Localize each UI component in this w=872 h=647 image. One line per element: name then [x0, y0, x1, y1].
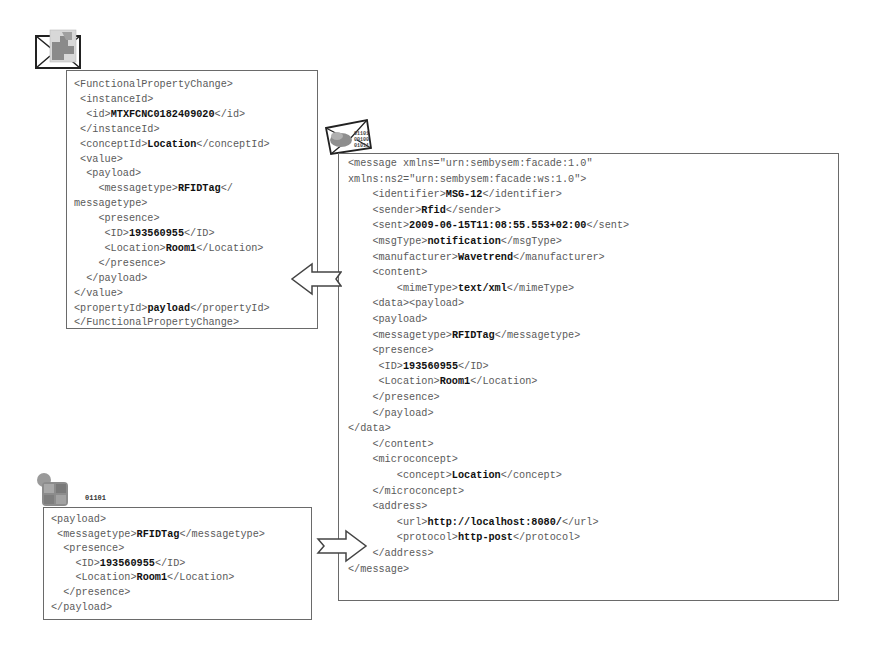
envelope-binary-icon: 01101 00100 01011	[323, 118, 373, 156]
xml-tag: <conceptId>	[80, 139, 147, 150]
xml-line: <instanceId>	[80, 92, 153, 107]
xml-tag: </content>	[372, 439, 433, 450]
xml-tag: <identifier>	[372, 189, 445, 200]
xml-tag: <mimeType>	[397, 283, 458, 294]
xml-line: </payload>	[86, 271, 147, 286]
xml-line: messagetype>	[74, 196, 147, 211]
xml-tag: <sent>	[372, 220, 409, 231]
xml-tag: <data><payload>	[372, 298, 464, 309]
xml-line: <presence>	[98, 211, 159, 226]
xml-tag: <sender>	[372, 205, 421, 216]
xml-closing-tag: </ID>	[184, 228, 215, 239]
xml-line: <ID>193560955</ID>	[75, 556, 185, 571]
xml-tag: <instanceId>	[80, 94, 153, 105]
xml-value: http://localhost:8080/	[427, 517, 562, 528]
xml-value: MTXFCNC0182409020	[111, 109, 215, 120]
xml-tag: <presence>	[98, 213, 159, 224]
xml-line: <concept>Location</concept>	[397, 468, 562, 483]
xml-tag: <Location>	[379, 376, 440, 387]
xml-tag: <presence>	[63, 543, 124, 554]
message-xml-box: <message xmlns="urn:sembysem:facade:1.0"…	[338, 153, 839, 601]
xml-line: <manufacturer>Wavetrend</manufacturer>	[372, 250, 604, 265]
xml-tag: <ID>	[75, 558, 99, 569]
xml-tag: </payload>	[372, 408, 433, 419]
xml-closing-tag: </sender>	[446, 205, 501, 216]
xml-tag: <presence>	[372, 345, 433, 356]
xml-line: <Location>Room1</Location>	[379, 374, 538, 389]
xml-tag: </FunctionalPropertyChange>	[74, 317, 239, 328]
xml-value: Wavetrend	[458, 252, 513, 263]
xml-tag: <payload>	[86, 168, 141, 179]
xml-tag: </payload>	[51, 602, 112, 613]
xml-tag: <concept>	[397, 470, 452, 481]
left-arrow-icon	[290, 262, 342, 296]
xml-tag: <value>	[80, 154, 123, 165]
xml-line: </FunctionalPropertyChange>	[74, 315, 239, 330]
xml-closing-tag: </url>	[562, 517, 599, 528]
xml-line: <address>	[372, 499, 427, 514]
xml-tag: xmlns:ns2="urn:sembysem:facade:ws:1.0">	[348, 174, 586, 185]
xml-line: <data><payload>	[372, 296, 464, 311]
xml-line: </presence>	[372, 390, 439, 405]
xml-tag: <payload>	[372, 314, 427, 325]
xml-line: <Location>Room1</Location>	[105, 241, 264, 256]
xml-line: </content>	[372, 437, 433, 452]
right-arrow-icon	[316, 529, 368, 563]
xml-tag: <address>	[372, 501, 427, 512]
xml-line: <microconcept>	[372, 452, 458, 467]
xml-line: </payload>	[51, 600, 112, 615]
xml-tag: <Location>	[105, 243, 166, 254]
xml-line: <protocol>http-post</protocol>	[397, 530, 580, 545]
xml-value: Room1	[137, 572, 168, 583]
xml-tag: messagetype>	[74, 198, 147, 209]
xml-tag: </message>	[348, 564, 409, 575]
xml-line: <id>MTXFCNC0182409020</id>	[86, 107, 245, 122]
xml-tag: </presence>	[63, 587, 130, 598]
xml-line: <propertyId>payload</propertyId>	[74, 301, 270, 316]
xml-tag: </value>	[74, 288, 123, 299]
xml-tag: <content>	[372, 267, 427, 278]
xml-line: </message>	[348, 562, 409, 577]
xml-tag: <messagetype>	[57, 529, 136, 540]
xml-closing-tag: </messagetype>	[179, 529, 265, 540]
xml-closing-tag: </	[221, 183, 233, 194]
xml-value: Room1	[440, 376, 471, 387]
xml-line: </data>	[348, 421, 391, 436]
xml-tag: </presence>	[372, 392, 439, 403]
xml-line: <ID>193560955</ID>	[379, 359, 489, 374]
xml-line: </value>	[74, 286, 123, 301]
xml-line: <url>http://localhost:8080/</url>	[397, 515, 599, 530]
xml-tag: <FunctionalPropertyChange>	[74, 79, 233, 90]
xml-line: <content>	[372, 265, 427, 280]
xml-line: </address>	[372, 546, 433, 561]
xml-line: <messagetype>RFIDTag</messagetype>	[372, 328, 580, 343]
xml-value: Location	[452, 470, 501, 481]
xml-closing-tag: </protocol>	[513, 532, 580, 543]
xml-closing-tag: </concept>	[501, 470, 562, 481]
xml-value: Rfid	[421, 205, 445, 216]
xml-value: 2009-06-15T11:08:55.553+02:00	[409, 220, 586, 231]
xml-closing-tag: </messagetype>	[495, 330, 581, 341]
xml-line: <presence>	[63, 541, 124, 556]
xml-tag: <id>	[86, 109, 110, 120]
xml-line: <sender>Rfid</sender>	[372, 203, 500, 218]
xml-closing-tag: </msgType>	[501, 236, 562, 247]
xml-line: <identifier>MSG-12</identifier>	[372, 187, 562, 202]
xml-line: <conceptId>Location</conceptId>	[80, 137, 270, 152]
xml-line: <FunctionalPropertyChange>	[74, 77, 233, 92]
xml-tag: <msgType>	[372, 236, 427, 247]
xml-value: 193560955	[129, 228, 184, 239]
xml-line: </microconcept>	[372, 484, 464, 499]
xml-tag: <Location>	[75, 572, 136, 583]
xml-closing-tag: </sent>	[586, 220, 629, 231]
xml-closing-tag: </mimeType>	[507, 283, 574, 294]
xml-closing-tag: </propertyId>	[190, 303, 269, 314]
xml-tag: </instanceId>	[80, 124, 159, 135]
xml-closing-tag: </Location>	[196, 243, 263, 254]
xml-line: <payload>	[86, 166, 141, 181]
xml-tag: <messagetype>	[372, 330, 451, 341]
xml-tag: <ID>	[105, 228, 129, 239]
svg-text:01011: 01011	[354, 143, 369, 149]
xml-line: <payload>	[372, 312, 427, 327]
xml-closing-tag: </manufacturer>	[513, 252, 605, 263]
